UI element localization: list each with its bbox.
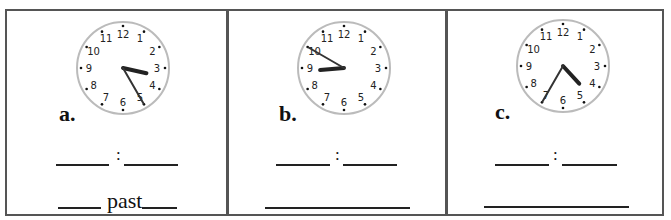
time-colon: : — [116, 145, 121, 165]
svg-text:3: 3 — [154, 63, 160, 74]
svg-text:9: 9 — [86, 63, 92, 74]
svg-text:12: 12 — [557, 27, 570, 38]
svg-text:10: 10 — [527, 44, 540, 55]
svg-text:6: 6 — [560, 95, 566, 106]
minutes-word-answer-line[interactable] — [58, 207, 101, 209]
svg-text:2: 2 — [589, 44, 595, 55]
svg-text:1: 1 — [577, 31, 583, 42]
analog-clock-a: 121234567891011 — [74, 19, 172, 117]
panel-label: a. — [59, 101, 76, 127]
hour-word-answer-line[interactable] — [142, 207, 177, 209]
hour-answer-line[interactable] — [56, 164, 109, 166]
hour-answer-line[interactable] — [495, 164, 549, 166]
svg-text:6: 6 — [120, 97, 126, 108]
time-colon: : — [335, 145, 340, 165]
svg-text:10: 10 — [87, 46, 100, 57]
analog-clock-b: 121234567891011 — [295, 19, 393, 117]
word-answer-line[interactable] — [265, 207, 410, 209]
word-answer-line[interactable] — [484, 206, 629, 208]
past-word: past — [107, 188, 142, 214]
svg-text:5: 5 — [577, 90, 583, 101]
svg-text:2: 2 — [370, 46, 376, 57]
svg-text:11: 11 — [540, 31, 553, 42]
svg-text:3: 3 — [594, 61, 600, 72]
svg-text:6: 6 — [341, 97, 347, 108]
svg-text:8: 8 — [311, 80, 317, 91]
minute-answer-line[interactable] — [343, 164, 397, 166]
panel-label: b. — [279, 101, 297, 127]
svg-text:1: 1 — [358, 33, 364, 44]
svg-text:4: 4 — [589, 78, 595, 89]
svg-text:9: 9 — [307, 63, 313, 74]
svg-text:5: 5 — [358, 92, 364, 103]
svg-text:11: 11 — [321, 33, 334, 44]
svg-text:4: 4 — [149, 80, 155, 91]
panel-divider — [445, 9, 448, 216]
svg-text:8: 8 — [90, 80, 96, 91]
time-colon: : — [553, 145, 558, 165]
analog-clock-c: 121234567891011 — [514, 17, 612, 115]
svg-text:1: 1 — [137, 33, 143, 44]
svg-text:8: 8 — [530, 78, 536, 89]
minute-answer-line[interactable] — [562, 164, 617, 166]
svg-text:7: 7 — [324, 92, 330, 103]
panel-label: c. — [495, 99, 510, 125]
svg-text:12: 12 — [117, 29, 130, 40]
svg-text:11: 11 — [100, 33, 113, 44]
svg-text:12: 12 — [338, 29, 351, 40]
svg-text:4: 4 — [370, 80, 376, 91]
svg-text:7: 7 — [103, 92, 109, 103]
minute-answer-line[interactable] — [124, 164, 178, 166]
svg-text:9: 9 — [526, 61, 532, 72]
panel-divider — [226, 9, 229, 216]
svg-text:2: 2 — [149, 46, 155, 57]
hour-answer-line[interactable] — [276, 164, 330, 166]
svg-text:3: 3 — [375, 63, 381, 74]
